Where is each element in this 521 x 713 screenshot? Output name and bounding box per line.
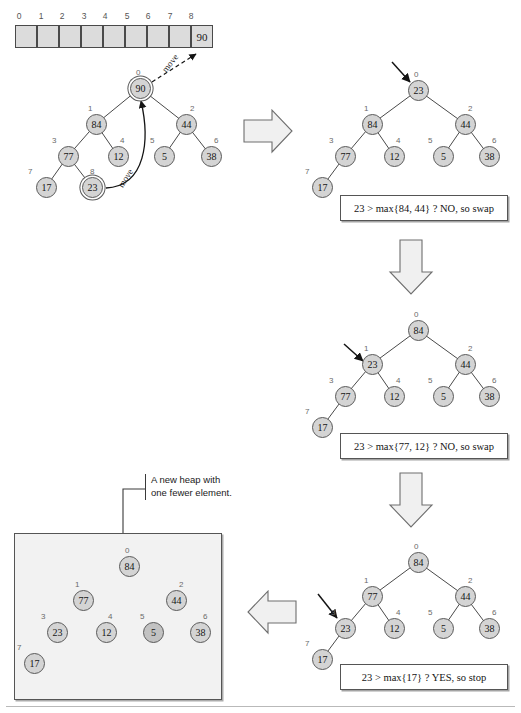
node-step0-1[interactable]: 84 bbox=[86, 114, 107, 135]
node-step1-1[interactable]: 84 bbox=[362, 114, 383, 135]
node-index-4: 4 bbox=[396, 376, 400, 385]
array-index-8: 8 bbox=[180, 11, 202, 21]
node-index-4: 4 bbox=[108, 612, 112, 621]
array-index-1: 1 bbox=[30, 11, 52, 21]
node-step1-0[interactable]: 23 bbox=[408, 80, 429, 101]
node-result-6[interactable]: 38 bbox=[190, 622, 211, 643]
node-index-7: 7 bbox=[305, 167, 309, 176]
node-index-5: 5 bbox=[428, 608, 432, 617]
node-index-3: 3 bbox=[41, 612, 45, 621]
node-index-4: 4 bbox=[396, 608, 400, 617]
node-index-0: 0 bbox=[414, 310, 418, 319]
node-result-4[interactable]: 12 bbox=[96, 622, 117, 643]
node-step2-6[interactable]: 38 bbox=[479, 386, 500, 407]
array-cell-1[interactable] bbox=[37, 25, 59, 48]
node-result-0[interactable]: 84 bbox=[119, 556, 140, 577]
node-step0-4[interactable]: 12 bbox=[108, 146, 129, 167]
flow-arrow-left-bottom bbox=[248, 591, 296, 633]
node-index-1: 1 bbox=[364, 104, 368, 113]
node-step0-5[interactable]: 5 bbox=[154, 146, 175, 167]
node-result-5[interactable]: 5 bbox=[143, 622, 164, 643]
node-index-6: 6 bbox=[203, 612, 207, 621]
node-index-6: 6 bbox=[492, 608, 496, 617]
node-index-4: 4 bbox=[396, 136, 400, 145]
node-step3-5[interactable]: 5 bbox=[433, 618, 454, 639]
node-step2-1[interactable]: 23 bbox=[362, 354, 383, 375]
node-index-5: 5 bbox=[140, 612, 144, 621]
node-index-2: 2 bbox=[468, 104, 472, 113]
node-step0-8[interactable]: 23 bbox=[82, 177, 103, 198]
node-index-6: 6 bbox=[492, 136, 496, 145]
node-index-5: 5 bbox=[428, 136, 432, 145]
node-step3-0[interactable]: 84 bbox=[408, 552, 429, 573]
node-step0-2[interactable]: 44 bbox=[176, 114, 197, 135]
array-cell-5[interactable] bbox=[125, 25, 147, 48]
node-step2-4[interactable]: 12 bbox=[384, 386, 405, 407]
node-result-3[interactable]: 23 bbox=[47, 622, 68, 643]
array-index-7: 7 bbox=[159, 11, 181, 21]
node-index-7: 7 bbox=[305, 639, 309, 648]
caption-step2: 23 > max{77, 12} ? NO, so swap bbox=[340, 433, 508, 459]
node-index-0: 0 bbox=[125, 546, 129, 555]
node-step0-3[interactable]: 77 bbox=[58, 146, 79, 167]
callout-leader-line bbox=[123, 489, 145, 533]
node-index-0: 0 bbox=[414, 542, 418, 551]
footer-rule bbox=[6, 706, 515, 707]
node-step1-2[interactable]: 44 bbox=[455, 114, 476, 135]
node-step3-6[interactable]: 38 bbox=[479, 618, 500, 639]
array-cell-7[interactable] bbox=[169, 25, 191, 48]
node-step0-6[interactable]: 38 bbox=[201, 146, 222, 167]
callout-new-heap: A new heap with one fewer element. bbox=[145, 474, 236, 500]
node-step3-7[interactable]: 17 bbox=[312, 649, 333, 670]
node-step3-1[interactable]: 77 bbox=[362, 586, 383, 607]
node-index-3: 3 bbox=[329, 376, 333, 385]
node-index-1: 1 bbox=[364, 344, 368, 353]
array-cell-4[interactable] bbox=[103, 25, 125, 48]
node-step2-5[interactable]: 5 bbox=[433, 386, 454, 407]
array-cell-6[interactable] bbox=[147, 25, 169, 48]
pointer-arrow-step1 bbox=[392, 62, 410, 82]
node-step1-6[interactable]: 38 bbox=[479, 146, 500, 167]
node-result-2[interactable]: 44 bbox=[166, 590, 187, 611]
node-step1-3[interactable]: 77 bbox=[335, 146, 356, 167]
array-index-6: 6 bbox=[137, 11, 159, 21]
array-cell-0[interactable] bbox=[15, 25, 37, 48]
node-step1-4[interactable]: 12 bbox=[384, 146, 405, 167]
node-index-7: 7 bbox=[17, 643, 21, 652]
node-step2-7[interactable]: 17 bbox=[312, 417, 333, 438]
node-step0-7[interactable]: 17 bbox=[36, 177, 57, 198]
figure-root: 0 1 2 3 4 5 6 7 8 90 0 90 1 84 2 44 bbox=[0, 0, 521, 713]
node-index-0: 0 bbox=[414, 70, 418, 79]
node-step3-2[interactable]: 44 bbox=[455, 586, 476, 607]
node-index-5: 5 bbox=[428, 376, 432, 385]
node-step2-0[interactable]: 84 bbox=[408, 320, 429, 341]
node-step3-3[interactable]: 23 bbox=[335, 618, 356, 639]
tree-edges-step2 bbox=[322, 330, 489, 427]
node-step1-7[interactable]: 17 bbox=[312, 177, 333, 198]
node-index-7: 7 bbox=[28, 167, 32, 176]
node-result-7[interactable]: 17 bbox=[24, 653, 45, 674]
node-index-7: 7 bbox=[305, 407, 309, 416]
node-step2-2[interactable]: 44 bbox=[455, 354, 476, 375]
callout-line-2: one fewer element. bbox=[151, 487, 236, 500]
array-cell-8[interactable]: 90 bbox=[191, 25, 213, 48]
node-index-5: 5 bbox=[150, 136, 154, 145]
array-cell-2[interactable] bbox=[59, 25, 81, 48]
node-index-0: 0 bbox=[136, 68, 140, 77]
node-index-8: 8 bbox=[90, 167, 94, 176]
node-index-6: 6 bbox=[214, 136, 218, 145]
node-step2-3[interactable]: 77 bbox=[335, 386, 356, 407]
array-cell-3[interactable] bbox=[81, 25, 103, 48]
node-index-3: 3 bbox=[52, 136, 56, 145]
flow-arrow-right-top bbox=[244, 110, 292, 152]
flow-arrow-down-1 bbox=[390, 240, 432, 294]
node-index-2: 2 bbox=[468, 344, 472, 353]
array-index-4: 4 bbox=[94, 11, 116, 21]
node-step0-0[interactable]: 90 bbox=[130, 78, 151, 99]
node-index-1: 1 bbox=[364, 576, 368, 585]
node-result-1[interactable]: 77 bbox=[73, 590, 94, 611]
pointer-arrow-step2 bbox=[344, 344, 363, 361]
node-step1-5[interactable]: 5 bbox=[433, 146, 454, 167]
node-step3-4[interactable]: 12 bbox=[384, 618, 405, 639]
node-index-2: 2 bbox=[468, 576, 472, 585]
